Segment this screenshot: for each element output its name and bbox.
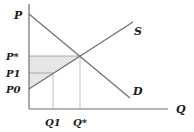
supply-curve [29,22,133,89]
supply-label: S [134,25,142,38]
x-axis-label: Q [176,103,186,116]
q-star-label: Q* [73,117,88,128]
supply-demand-diagram: P Q S D P* P1 P0 Q1 Q* [0,0,194,132]
demand-label: D [132,85,143,98]
q1-label: Q1 [45,117,61,128]
p1-label: P1 [5,68,20,79]
p-star-label: P* [5,51,20,62]
p0-label: P0 [5,84,21,95]
y-axis-label: P [13,9,23,22]
